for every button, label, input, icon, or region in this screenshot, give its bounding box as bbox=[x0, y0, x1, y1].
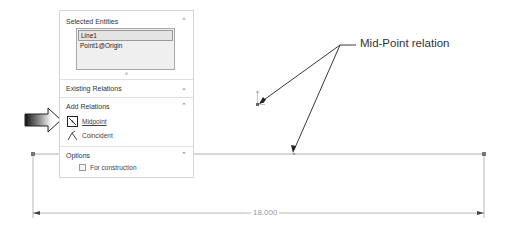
chevron-up-icon[interactable]: ⌃ bbox=[181, 151, 187, 159]
resize-grip[interactable] bbox=[125, 72, 128, 75]
selected-entities-list[interactable]: Line1 Point1@Origin bbox=[76, 28, 175, 70]
midpoint-icon bbox=[67, 116, 78, 127]
section-add-relations[interactable]: Add Relations ⌃ bbox=[60, 98, 193, 114]
callout-text: Mid-Point relation bbox=[360, 37, 449, 49]
coincident-icon bbox=[67, 130, 78, 141]
section-title: Options bbox=[66, 152, 90, 159]
relation-midpoint[interactable]: Midpoint bbox=[67, 115, 107, 128]
section-options[interactable]: Options ⌃ bbox=[60, 147, 193, 163]
property-manager-panel: Selected Entities ⌃ Line1 Point1@Origin … bbox=[59, 10, 194, 178]
chevron-up-icon[interactable]: ⌃ bbox=[181, 102, 187, 110]
section-title: Add Relations bbox=[66, 103, 110, 110]
line-endpoint-right bbox=[482, 152, 486, 156]
callout-leader bbox=[259, 45, 356, 153]
for-construction-checkbox[interactable] bbox=[79, 164, 86, 171]
dimension-value[interactable]: 18.000 bbox=[251, 208, 279, 217]
section-title: Selected Entities bbox=[66, 18, 118, 25]
for-construction-label: For construction bbox=[90, 164, 137, 171]
chevron-down-icon[interactable]: ⌄ bbox=[181, 84, 187, 92]
section-existing-relations[interactable]: Existing Relations ⌄ bbox=[60, 80, 193, 96]
relation-label: Coincident bbox=[82, 132, 113, 139]
section-title: Existing Relations bbox=[66, 85, 122, 92]
dimension-arrow-right bbox=[477, 211, 484, 215]
for-construction-option[interactable]: For construction bbox=[79, 164, 137, 171]
dimension-arrow-left bbox=[33, 211, 40, 215]
highlight-arrow-icon bbox=[24, 107, 64, 133]
line-endpoint-left bbox=[31, 152, 35, 156]
relation-coincident[interactable]: Coincident bbox=[67, 129, 113, 142]
relation-label: Midpoint bbox=[82, 118, 107, 125]
list-item[interactable]: Line1 bbox=[78, 30, 173, 41]
list-item[interactable]: Point1@Origin bbox=[78, 41, 173, 50]
midpoint-marker bbox=[293, 153, 295, 155]
chevron-up-icon[interactable]: ⌃ bbox=[181, 17, 187, 25]
section-selected-entities[interactable]: Selected Entities ⌃ bbox=[60, 13, 193, 29]
